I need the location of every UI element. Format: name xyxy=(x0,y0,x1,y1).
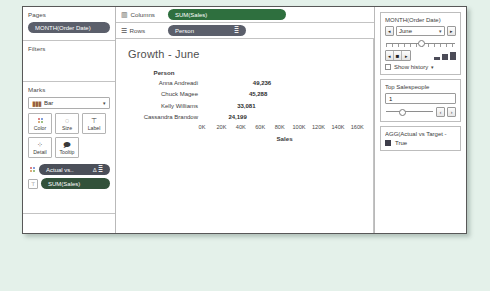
bar-area: 49,236 xyxy=(202,79,367,87)
page-prev-button[interactable]: ◂ xyxy=(385,26,394,36)
columns-pill-sum-sales[interactable]: SUM(Sales) xyxy=(168,9,286,20)
marks-detail-label: Detail xyxy=(33,149,46,155)
marks-pill-2-label: SUM(Sales) xyxy=(48,181,80,187)
bar-area: 33,081 xyxy=(202,102,367,110)
marks-card: Marks ▮▮▮ Bar ▾ Color ◌ Size ⊤ xyxy=(23,82,115,214)
marks-detail-button[interactable]: ⁘ Detail xyxy=(28,137,52,158)
x-axis-ticks: 0K 20K 40K 60K 80K 100K 120K 140K 160K xyxy=(202,124,367,133)
marks-color-label: Color xyxy=(34,125,46,131)
detail-dots-icon: ⁘ xyxy=(37,140,43,148)
page-playback-bar: ◂ ■ ▸ xyxy=(385,50,456,61)
parameter-increment-button[interactable]: › xyxy=(447,107,456,117)
row-label: Kelly Williams xyxy=(126,103,202,109)
speed-slow-icon[interactable] xyxy=(434,57,440,60)
bar-value-label: 33,081 xyxy=(234,102,255,110)
speed-medium-icon[interactable] xyxy=(442,54,448,60)
legend-item[interactable]: True xyxy=(385,140,456,146)
rows-drop-area[interactable]: Person ≣ xyxy=(168,25,369,36)
columns-pill-label: SUM(Sales) xyxy=(175,12,207,18)
parameter-value: 1 xyxy=(389,96,392,102)
parameter-decrement-button[interactable]: ‹ xyxy=(436,107,445,117)
columns-drop-area[interactable]: SUM(Sales) xyxy=(168,9,369,20)
page-value-dropdown[interactable]: June ▾ xyxy=(396,26,445,36)
parameter-card: Top Salespeople 1 ‹ › xyxy=(380,79,461,122)
playback-buttons: ◂ ■ ▸ xyxy=(385,50,411,61)
pages-shelf[interactable]: Pages MONTH(Order Date) xyxy=(23,7,115,41)
parameter-input[interactable]: 1 xyxy=(385,93,456,104)
chevron-down-icon: ▾ xyxy=(103,100,106,106)
columns-icon: ▥ xyxy=(121,11,128,18)
tooltip-bubble-icon: 🗩 xyxy=(63,140,71,148)
mark-type-label: Bar xyxy=(44,100,53,106)
mark-type-dropdown[interactable]: ▮▮▮ Bar ▾ xyxy=(28,97,110,109)
columns-shelf[interactable]: ▥ Columns SUM(Sales) xyxy=(116,7,374,23)
marks-shelf-pill-row-1: Actual vs.. Δ ≣ xyxy=(28,164,110,175)
label-text-icon: ⊤ xyxy=(28,179,38,189)
page-control-row: ◂ June ▾ ▸ xyxy=(385,26,456,36)
parameter-title: Top Salespeople xyxy=(385,84,456,90)
legend-swatch xyxy=(385,140,391,146)
filters-shelf[interactable]: Filters xyxy=(23,41,115,82)
play-backward-button[interactable]: ◂ xyxy=(386,51,394,60)
bar-value-label: 45,288 xyxy=(246,90,267,98)
pages-pill-month-order-date[interactable]: MONTH(Order Date) xyxy=(28,22,110,33)
marks-pill-actual-vs-target[interactable]: Actual vs.. Δ ≣ xyxy=(39,164,110,175)
pages-pill-label: MONTH(Order Date) xyxy=(35,25,91,31)
rows-shelf[interactable]: ☰ Rows Person ≣ xyxy=(116,23,374,39)
parameter-slider-knob[interactable] xyxy=(399,109,406,116)
marks-title: Marks xyxy=(28,86,110,93)
table-row[interactable]: Cassandra Brandow 24,199 xyxy=(126,113,367,122)
marks-buttons-row-2: ⁘ Detail 🗩 Tooltip xyxy=(28,137,110,158)
speed-fast-icon[interactable] xyxy=(450,52,456,60)
page-slider-knob[interactable] xyxy=(418,40,425,47)
x-axis-title-row: Sales xyxy=(126,134,367,142)
center-panel: ▥ Columns SUM(Sales) ☰ Rows Person ≣ xyxy=(116,7,374,233)
marks-size-label: Size xyxy=(62,125,72,131)
label-text-icon: ⊤ xyxy=(91,116,97,124)
pages-title: Pages xyxy=(28,11,110,18)
table-row[interactable]: Anna Andreadi 49,236 xyxy=(126,78,367,87)
x-tick: 20K xyxy=(216,124,226,130)
x-tick: 140K xyxy=(331,124,344,130)
filters-title: Filters xyxy=(28,45,110,52)
chart-area: Person Anna Andreadi 49,236 Chuck Magee xyxy=(126,69,367,142)
page-next-button[interactable]: ▸ xyxy=(447,26,456,36)
bar-value-label: 49,236 xyxy=(250,79,271,87)
legend-title: AGG(Actual vs Target - xyxy=(385,131,456,137)
playback-speed-control[interactable] xyxy=(434,52,456,60)
table-row[interactable]: Chuck Magee 45,288 xyxy=(126,90,367,99)
chevron-down-icon[interactable]: ▾ xyxy=(431,64,434,70)
marks-pill-1-extra-icon: Δ ≣ xyxy=(93,166,103,173)
tableau-window: Pages MONTH(Order Date) Filters Marks ▮▮… xyxy=(22,6,467,234)
bar-chart-icon: ▮▮▮ xyxy=(32,100,41,107)
rows-label: Rows xyxy=(130,27,145,34)
marks-pill-1-label: Actual vs.. xyxy=(46,167,74,173)
color-dots-icon xyxy=(38,116,43,124)
parameter-slider-track xyxy=(386,111,433,112)
rows-pill-label: Person xyxy=(175,28,194,34)
marks-label-button[interactable]: ⊤ Label xyxy=(82,113,106,134)
x-tick: 40K xyxy=(236,124,246,130)
marks-pill-sum-sales[interactable]: SUM(Sales) xyxy=(41,178,110,189)
sort-icon[interactable]: ≣ xyxy=(234,27,239,34)
marks-size-button[interactable]: ◌ Size xyxy=(55,113,79,134)
x-tick: 100K xyxy=(292,124,305,130)
show-history-row[interactable]: Show history ▾ xyxy=(385,64,456,70)
visualization-canvas[interactable]: Growth - June Person Anna Andreadi 49,23… xyxy=(116,39,374,233)
page-control-card: MONTH(Order Date) ◂ June ▾ ▸ ◂ ■ ▸ xyxy=(380,12,461,75)
x-axis-title: Sales xyxy=(202,135,367,142)
parameter-slider[interactable] xyxy=(386,108,433,117)
parameter-slider-row: ‹ › xyxy=(385,107,456,117)
marks-color-button[interactable]: Color xyxy=(28,113,52,134)
table-row[interactable]: Kelly Williams 33,081 xyxy=(126,101,367,110)
marks-tooltip-button[interactable]: 🗩 Tooltip xyxy=(55,137,79,158)
rows-pill-person[interactable]: Person ≣ xyxy=(168,25,246,36)
page-control-title: MONTH(Order Date) xyxy=(385,17,456,23)
show-history-checkbox[interactable] xyxy=(385,64,391,70)
page-slider[interactable] xyxy=(386,39,455,48)
chevron-down-icon: ▾ xyxy=(439,28,442,34)
columns-label: Columns xyxy=(131,11,155,18)
play-forward-button[interactable]: ▸ xyxy=(402,51,410,60)
play-stop-button[interactable]: ■ xyxy=(394,51,402,60)
x-tick: 160K xyxy=(351,124,364,130)
